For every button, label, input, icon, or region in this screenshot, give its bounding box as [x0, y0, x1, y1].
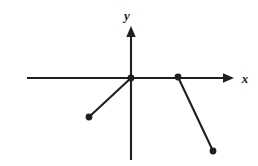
- lower-left-point: [86, 114, 93, 121]
- segment-x-axis-point-to-lower-right: [178, 77, 213, 151]
- lower-right-point: [210, 148, 217, 155]
- x-axis-arrowhead: [223, 73, 234, 83]
- segment-origin-to-lower-left: [89, 78, 131, 117]
- y-axis-label: y: [122, 8, 130, 23]
- coordinate-plane-figure: y x: [0, 0, 258, 166]
- x-axis-point: [175, 74, 182, 81]
- figure-canvas: y x: [0, 0, 258, 166]
- x-axis-label: x: [241, 71, 249, 86]
- origin-point: [128, 75, 135, 82]
- y-axis-arrowhead: [126, 26, 135, 37]
